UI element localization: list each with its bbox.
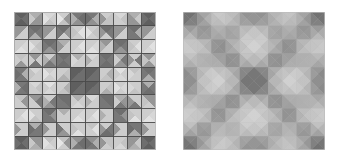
smooth-shaded-surface-canvas <box>183 12 325 150</box>
smooth-shaded-surface-panel <box>183 12 325 150</box>
figure-root <box>0 0 340 159</box>
flat-shaded-mesh-canvas <box>14 12 156 150</box>
flat-shaded-wireframe-panel <box>14 12 156 150</box>
